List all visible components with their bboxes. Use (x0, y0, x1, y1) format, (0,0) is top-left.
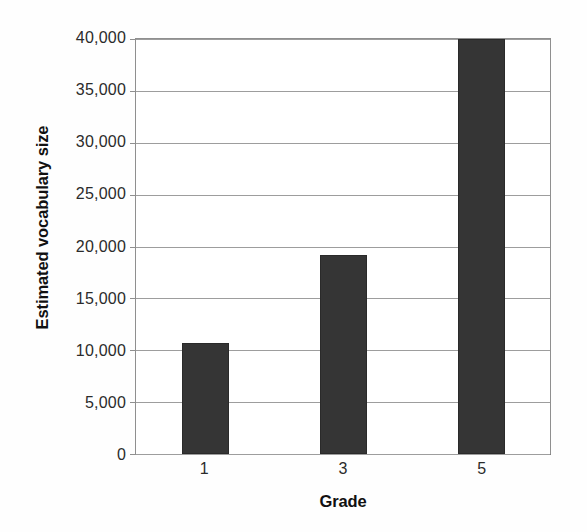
y-tick-label: 10,000 (28, 342, 126, 360)
y-tick-label: 25,000 (28, 185, 126, 203)
bar-slot (274, 39, 412, 454)
y-tick-label: 15,000 (28, 290, 126, 308)
x-axis-tick-labels: 135 (135, 460, 551, 486)
x-tick-label: 5 (412, 460, 551, 486)
y-tick-label: 5,000 (28, 394, 126, 412)
y-tick-mark (130, 454, 136, 455)
y-tick-label: 30,000 (28, 133, 126, 151)
bar-3[interactable] (320, 255, 367, 454)
x-tick-label: 1 (135, 460, 274, 486)
plot-area (135, 38, 551, 455)
y-tick-label: 35,000 (28, 81, 126, 99)
y-tick-label: 0 (28, 446, 126, 464)
gridline (136, 454, 550, 455)
bar-slot (136, 39, 274, 454)
y-tick-label: 40,000 (28, 29, 126, 47)
y-axis-tick-labels: 05,00010,00015,00020,00025,00030,00035,0… (28, 38, 126, 455)
bar-slot (412, 39, 550, 454)
bar-5[interactable] (458, 39, 505, 454)
bars-group (136, 39, 550, 454)
x-tick-label: 3 (274, 460, 413, 486)
y-tick-label: 20,000 (28, 238, 126, 256)
x-axis-title: Grade (135, 492, 551, 511)
bar-1[interactable] (182, 343, 229, 454)
bar-chart-figure: Estimated vocabulary size 05,00010,00015… (0, 0, 587, 532)
